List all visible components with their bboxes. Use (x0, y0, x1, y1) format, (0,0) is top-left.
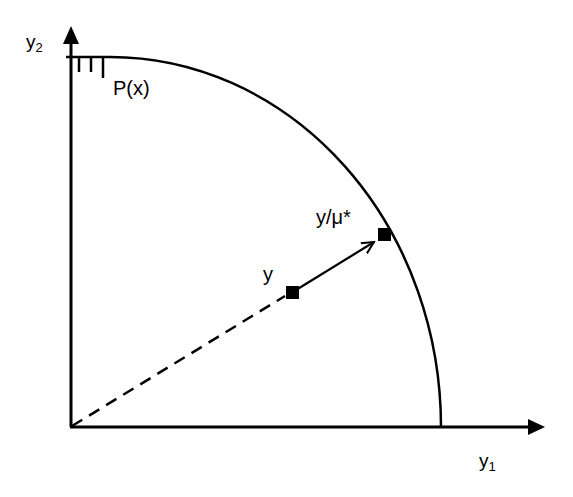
y-axis-arrow-icon (63, 26, 79, 44)
frontier-curve (66, 57, 441, 427)
x-axis-label: y1 (479, 451, 496, 473)
frontier-hatch-marks (79, 58, 103, 78)
point-y-marker (286, 286, 299, 299)
scaling-arrow (296, 242, 374, 290)
diagram-canvas (0, 0, 573, 497)
point-y-label: y (263, 264, 273, 284)
ray-dashed (72, 296, 285, 426)
frontier-label: P(x) (113, 78, 150, 98)
point-y-scaled-label: y/μ* (316, 207, 351, 227)
point-y-scaled-marker (378, 228, 391, 241)
x-axis (70, 419, 545, 435)
y-axis (63, 26, 79, 427)
y-axis-label: y2 (26, 32, 43, 54)
x-axis-arrow-icon (528, 419, 545, 435)
